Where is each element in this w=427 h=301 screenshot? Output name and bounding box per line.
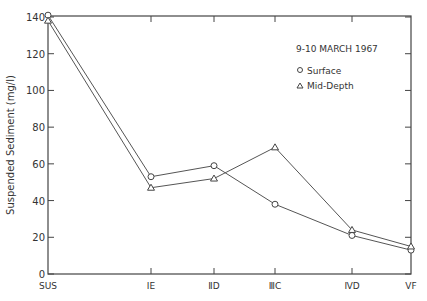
x-tick-label: ⅢC [269, 281, 282, 291]
x-tick-label: SUS [39, 281, 57, 291]
y-axis-label: Suspended Sediment (mg/l) [5, 75, 16, 215]
circle-marker [272, 201, 278, 207]
y-tick-label: 120 [26, 49, 45, 60]
y-tick-label: 60 [32, 159, 45, 170]
legend-label-middepth: Mid-Depth [307, 81, 354, 91]
y-tick-label: 80 [32, 122, 45, 133]
series-line-mid-depth [48, 21, 411, 247]
circle-marker [349, 232, 355, 238]
x-tick-label: ⅣD [344, 281, 359, 291]
y-tick-label: 140 [26, 12, 45, 23]
circle-marker [211, 163, 217, 169]
legend-triangle-icon [297, 83, 303, 88]
x-tick-label: IE [147, 281, 156, 291]
triangle-marker [211, 175, 218, 181]
y-tick-label: 20 [32, 232, 45, 243]
y-tick-label: 100 [26, 85, 45, 96]
chart-annotation: 9-10 MARCH 1967 [296, 44, 378, 54]
triangle-marker [45, 17, 52, 23]
circle-marker [148, 174, 154, 180]
legend-circle-icon [298, 68, 303, 73]
x-tick-label: ⅡD [208, 281, 219, 291]
sediment-line-chart: 020406080100120140SUSIEⅡDⅢCⅣDⅤFSuspended… [0, 0, 427, 301]
y-tick-label: 40 [32, 196, 45, 207]
triangle-marker [272, 144, 279, 150]
y-tick-label: 0 [39, 269, 45, 280]
plot-frame [48, 16, 411, 274]
legend-label-surface: Surface [307, 66, 342, 76]
x-tick-label: ⅤF [405, 281, 416, 291]
